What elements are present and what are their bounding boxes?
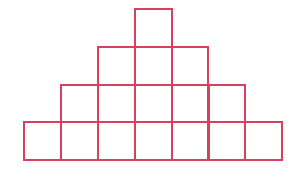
pyramid-square xyxy=(134,121,173,161)
pyramid-square xyxy=(244,121,283,161)
pyramid-square xyxy=(171,46,210,86)
pyramid-square xyxy=(208,84,247,124)
pyramid-square xyxy=(134,8,173,48)
pyramid-square xyxy=(60,121,99,161)
pyramid-square xyxy=(97,84,136,124)
pyramid-square xyxy=(134,46,173,86)
pyramid-square xyxy=(23,121,62,161)
pyramid-square xyxy=(97,46,136,86)
pyramid-square xyxy=(208,121,247,161)
pyramid-square xyxy=(171,121,210,161)
pyramid-square xyxy=(97,121,136,161)
pyramid-square xyxy=(60,84,99,124)
square-pyramid-diagram xyxy=(0,0,302,177)
pyramid-square xyxy=(134,84,173,124)
pyramid-square xyxy=(171,84,210,124)
